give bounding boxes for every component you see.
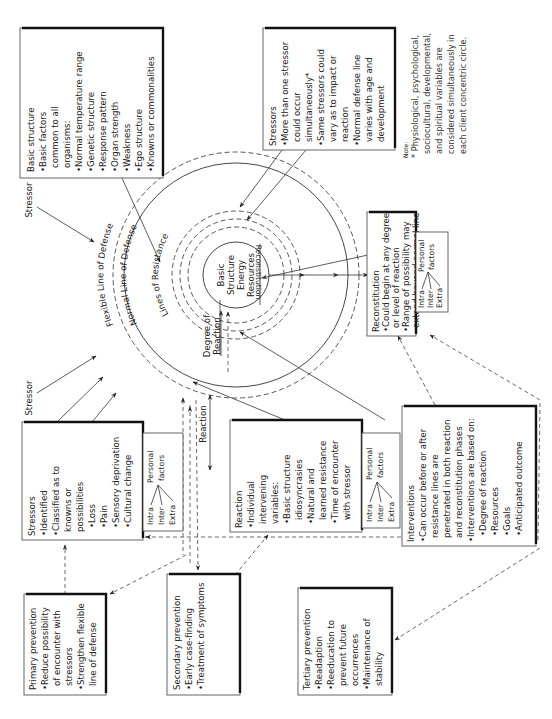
core-label: Basic Structure Energy Resources [216,253,256,297]
pf-extra: Extra [435,288,444,308]
footnote: Note: * Physiological, psychological, so… [402,33,468,158]
pf-inter: Inter [426,289,435,308]
primary-prevention-line: line of defense [88,622,98,686]
pf-factors: factors [427,244,436,270]
stressors-top-line: could occur [292,92,302,142]
tertiary-prevention-line: prevent future [338,624,348,686]
tertiary-prevention-line: •Readaption [314,636,324,690]
basic-structure-line: •Organ strength [110,102,120,172]
note-line: each client concentric circle. [458,37,468,154]
stressors-left-box: Stressors •Identified •Classified as to … [22,422,143,540]
note-line: considered simultaneously in [446,34,456,154]
tertiary-prevention-line: occurrences [350,633,360,686]
stressors-top-line: development [376,85,386,142]
svg-text:Stressor: Stressor [24,182,34,218]
stressor-label-bottom: Stressor [24,380,34,416]
secondary-prevention-line: •Early case-finding [184,608,194,690]
primary-prevention-title: Primary prevention [28,608,38,690]
interventions-line: •Interventions are based on: [466,418,476,542]
core-label-energy: Energy [236,260,246,290]
pf-personal: Personal [417,240,426,272]
pf-extra: Extra [387,502,396,522]
secondary-prevention-title: Secondary prevention [172,595,182,690]
basic-structure-line: •Basic factors [38,111,48,172]
reaction-box: Reaction •Individual intervening variabl… [230,420,362,532]
svg-text:Reaction: Reaction [198,405,208,442]
stressors-top-line: simultaneously* [304,72,314,142]
stressors-left-line: possibilities [75,481,85,532]
reaction-line: •Natural and [306,468,316,524]
basic-structure-line: •Genetic structure [86,92,96,172]
basic-structure-line: •Knowns or commonalities [146,56,156,172]
interventions-line: •Can occur before or after [418,428,428,542]
svg-text:Reconstitution: Reconstitution [254,245,263,300]
secondary-prevention-box: Secondary prevention •Early case-finding… [167,574,240,695]
stressors-left-line: •Sensory deprivation [111,437,121,528]
basic-structure-line: •Ego structure [134,109,144,172]
stressors-top-line: •Normal defense line [352,55,362,146]
interventions-line: penetrated in both reaction [442,420,452,538]
interventions-box: Interventions •Can occur before or after… [402,406,536,546]
stressors-top-line: vary as to impact or [328,55,338,142]
stressors-left-line: •Pain [99,505,109,528]
reaction-line: intervening [258,475,268,524]
reconstitution-line: •Range of possibility may [401,221,411,332]
note-heading: Note: [402,142,409,158]
tertiary-prevention-line: stability [374,652,384,686]
reaction-line: idiosyncrasies [294,459,304,520]
primary-prevention-line: of encounter with [52,610,62,686]
stressors-left-line: •Identified [39,490,49,536]
stressors-left-line: •Cultural change [123,455,133,528]
reaction-line: learned resistance [318,441,328,520]
reaction-line: •Time of encounter [330,440,340,524]
basic-structure-line: common to all [50,106,60,168]
stressors-top-line: •More than one stressor [280,41,290,146]
stressors-left-arrow-1 [57,377,103,422]
lines-of-resistance-label: Lines of Resistance [150,232,170,319]
pf-factors: factors [157,455,166,481]
interventions-line: •Resources [490,487,500,536]
basic-structure-title: Basic structure [26,108,36,172]
stressors-top-title: Stressors [268,106,278,146]
note-line: and spiritual variables are [434,47,444,154]
primary-prevention-line: stressors [64,647,74,686]
stressors-left-line: knowns or [63,487,73,532]
stressors-left-line: •Loss [87,504,97,528]
primary-prevention-line: •Reduce possibility [40,607,50,690]
tertiary-prevention-line: •Reeducation to [326,620,336,690]
svg-text:Degree of: Degree of [202,314,212,357]
personal-factors-reconstitution: Intra Inter Extra Personal factors [416,232,448,312]
reconstitution-circle-label: Reconstitution [254,245,263,300]
reconstitution-line: •Could begin at any degree [381,213,391,332]
stressors-top-arrow-1 [240,150,282,207]
pf-intra: Intra [365,504,374,522]
basic-structure-box: Basic structure •Basic factors common to… [20,28,163,178]
reaction-line: with stressor [342,464,352,520]
reaction-box-to-resistance-arrow [240,332,385,420]
pf-personal: Personal [365,448,374,480]
stressors-top-line: reaction [340,107,350,142]
basic-structure-line: organisms: [62,121,72,168]
interventions-line: •Degree of reaction [478,451,488,536]
interventions-line: •Goals [502,506,512,536]
secondary-prevention-line: •Treatment of symptoms [196,582,206,690]
interventions-line: and reconstitution phases [454,426,464,538]
note-line: sociocultural, developmental, [422,33,432,154]
reaction-line: •Individual [246,481,256,528]
note-line: * Physiological, psychological, [410,35,420,158]
interventions-title: Interventions [406,485,416,542]
personal-factors-reaction: Intra Inter Extra Personal factors [362,433,400,528]
pf-extra: Extra [168,505,177,525]
interventions-line: •Anticipated outcome [514,441,524,536]
pf-inter: Inter [157,506,166,525]
basic-structure-line: •Normal temperature range [74,51,84,172]
flexible-line-label: Flexible Line of Defense [95,222,115,329]
reaction-label: Reaction [198,405,208,442]
basic-structure-line: •Weakness [122,123,132,172]
interventions-line: resistance lines are [430,455,440,538]
tertiary-prevention-box: Tertiary prevention •Readaption •Reeduca… [298,588,392,695]
stressors-left-line: •Classified as to [51,466,61,536]
stressor-arrow-bottom [37,356,96,393]
primary-prevention-line: •Strengthen flexible [76,603,86,690]
pf-personal: Personal [146,451,155,483]
